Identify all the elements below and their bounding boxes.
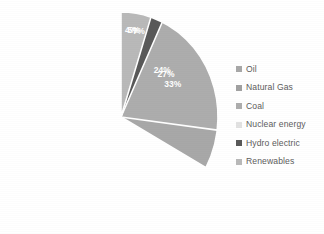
legend-item[interactable]: Oil xyxy=(236,60,324,79)
pie-svg: 33%24%27%4%7%5% xyxy=(0,0,232,234)
legend-swatch-icon xyxy=(236,66,242,72)
legend-swatch-icon xyxy=(236,85,242,91)
legend-item[interactable]: Nuclear energy xyxy=(236,116,324,135)
legend-item-label: Nuclear energy xyxy=(246,120,306,129)
legend-swatch-icon xyxy=(236,159,242,165)
legend-item[interactable]: Coal xyxy=(236,97,324,116)
legend-item[interactable]: Natural Gas xyxy=(236,79,324,98)
legend-item[interactable]: Hydro electric xyxy=(236,134,324,153)
pie-plot-area: 33%24%27%4%7%5% xyxy=(0,0,232,234)
chart-legend: OilNatural GasCoalNuclear energyHydro el… xyxy=(236,60,324,171)
legend-item[interactable]: Renewables xyxy=(236,153,324,172)
legend-swatch-icon xyxy=(236,122,242,128)
legend-swatch-icon xyxy=(236,140,242,146)
pie-slice-label: 27% xyxy=(158,69,175,79)
legend-item-label: Coal xyxy=(246,102,264,111)
legend-item-label: Renewables xyxy=(246,157,294,166)
pie-chart: 33%24%27%4%7%5% OilNatural GasCoalNuclea… xyxy=(0,0,324,234)
legend-item-label: Natural Gas xyxy=(246,83,293,92)
pie-slice-label: 5% xyxy=(128,25,141,35)
pie-slice-label: 33% xyxy=(164,79,181,89)
legend-item-label: Oil xyxy=(246,65,257,74)
legend-swatch-icon xyxy=(236,103,242,109)
legend-item-label: Hydro electric xyxy=(246,139,300,148)
